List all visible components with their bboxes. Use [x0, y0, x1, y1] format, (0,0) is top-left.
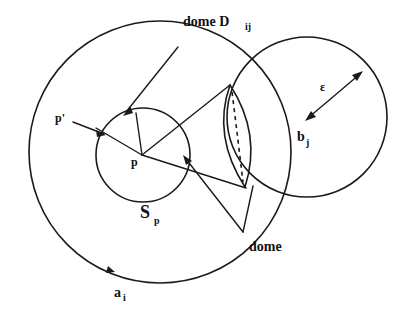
line-p-to-lens-top: [142, 85, 230, 155]
label-p: p: [131, 155, 138, 169]
label-dome-dij-subscript: ij: [245, 21, 251, 32]
dome-leader-branch-right: [243, 186, 253, 232]
line-p-to-p-prime: [96, 128, 142, 155]
label-b: b: [297, 129, 305, 144]
a-i-tick-arrowhead: [106, 266, 115, 273]
dome-dij-leader-line: [126, 47, 178, 112]
label-dome-dij: dome D: [183, 14, 229, 29]
label-a: a: [114, 285, 121, 300]
label-s: S: [140, 202, 150, 222]
dome-diagram: dome D ij p' p S p a i b j ε dome: [0, 0, 404, 316]
label-b-subscript: j: [305, 137, 309, 148]
epsilon-radius-line: [308, 74, 360, 118]
label-s-subscript: p: [154, 215, 160, 226]
figure-container: dome D ij p' p S p a i b j ε dome: [0, 0, 404, 316]
right-circle-b-j: [227, 37, 387, 197]
label-p-prime: p': [55, 111, 65, 125]
label-dome: dome: [249, 239, 282, 254]
radius-p-up: [136, 113, 142, 155]
label-a-subscript: i: [123, 292, 126, 303]
dome-leader-branch-left: [186, 159, 243, 232]
label-epsilon: ε: [320, 80, 325, 94]
